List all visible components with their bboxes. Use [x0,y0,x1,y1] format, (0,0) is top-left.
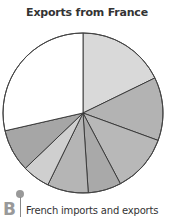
pie-slice-8 [3,33,83,131]
pie-chart [0,0,174,219]
caption-text: French imports and exports [26,205,158,216]
caption-marker-line [20,197,21,217]
caption-letter: B [3,201,16,218]
